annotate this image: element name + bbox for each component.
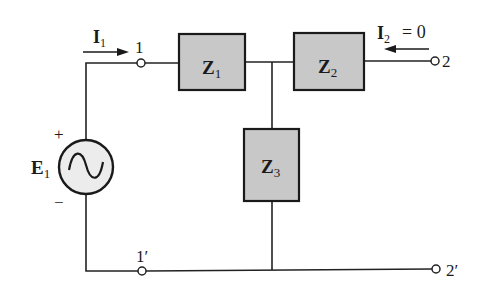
- terminal-1-prime-label: 1′: [136, 247, 148, 266]
- current-i2-value: = 0: [402, 22, 426, 42]
- terminal-2: [431, 57, 439, 65]
- terminal-1-prime: [138, 267, 146, 275]
- terminal-1-label: 1: [135, 38, 144, 57]
- terminal-2-prime: [432, 265, 440, 273]
- wire-source-to-terminal-1: [86, 63, 137, 140]
- terminal-2-label: 2: [442, 52, 451, 71]
- wire-source-to-terminal-1p: [86, 194, 138, 271]
- current-i2-arrow-icon: [384, 45, 429, 53]
- ac-sine-source-icon: [59, 140, 113, 194]
- source-plus-sign: +: [54, 125, 64, 144]
- wire-bottom-return: [146, 269, 432, 271]
- terminal-2-prime-label: 2′: [446, 261, 458, 280]
- terminal-1: [137, 59, 145, 67]
- circuit-diagram: Z1 Z2 Z3 + − E1 I1 I2 = 0 1 1′ 2 2′: [0, 0, 489, 300]
- current-i1-label: I1: [93, 27, 106, 50]
- source-minus-sign: −: [54, 193, 64, 212]
- source-label-e1: E1: [31, 157, 50, 181]
- current-i2-label: I2: [377, 23, 390, 46]
